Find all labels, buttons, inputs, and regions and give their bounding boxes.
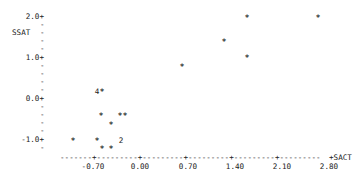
data-point: * bbox=[180, 63, 185, 71]
y-minor-tick: - bbox=[40, 127, 45, 135]
y-tick-1: 1.0+ bbox=[0, 54, 44, 62]
x-tick-label: 0.00 bbox=[131, 163, 149, 171]
data-point: * bbox=[109, 121, 114, 129]
scatter-plot: SSAT 2.0+ 1.0+ 0.0+ -1.0+ - - - - - - - … bbox=[0, 0, 359, 183]
data-point: * bbox=[245, 14, 250, 22]
data-point-count-2: 2 bbox=[119, 137, 124, 145]
y-axis-label: SSAT bbox=[12, 29, 30, 37]
data-point: * bbox=[222, 38, 227, 46]
y-minor-tick: - bbox=[40, 144, 45, 152]
x-tick-label: 0.70 bbox=[179, 163, 197, 171]
data-point: * bbox=[109, 145, 114, 153]
data-point: * bbox=[316, 14, 321, 22]
x-tick-label: 2.10 bbox=[273, 163, 291, 171]
data-point: * bbox=[95, 137, 100, 145]
data-point: * bbox=[245, 54, 250, 62]
data-point: * bbox=[123, 112, 128, 120]
data-point: * bbox=[100, 88, 105, 96]
x-axis-label: +SACT bbox=[329, 154, 352, 162]
y-minor-tick: - bbox=[40, 86, 45, 94]
y-minor-tick: - bbox=[40, 45, 45, 53]
x-tick-label: -0.70 bbox=[82, 163, 105, 171]
x-tick-label: 1.40 bbox=[226, 163, 244, 171]
x-axis-line: -------+---------+---------+---------+--… bbox=[60, 154, 321, 162]
data-point: * bbox=[99, 112, 104, 120]
data-point-count-4: 4 bbox=[95, 88, 100, 96]
y-tick-0: 0.0+ bbox=[0, 95, 44, 103]
data-point: * bbox=[100, 145, 105, 153]
y-tick-minus1: -1.0+ bbox=[0, 136, 44, 144]
x-tick-label: 2.80 bbox=[320, 163, 338, 171]
data-point: * bbox=[71, 137, 76, 145]
y-tick-2: 2.0+ bbox=[0, 13, 44, 21]
data-point: * bbox=[118, 112, 123, 120]
